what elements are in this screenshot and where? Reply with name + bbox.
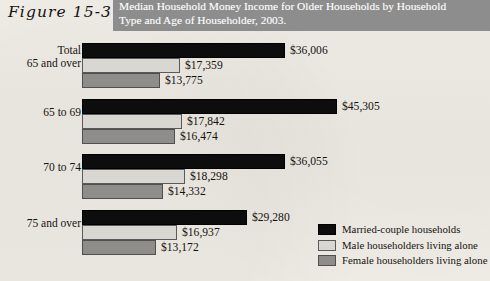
bar xyxy=(82,154,285,169)
bar-value-label: $16,474 xyxy=(180,130,218,143)
category-label-line-2: 65 and over xyxy=(0,57,81,70)
bar-value-label: $45,305 xyxy=(342,100,380,113)
category-label: 65 to 69 xyxy=(0,106,81,119)
bar-group: 70 to 74$36,055$18,298$14,332 xyxy=(0,152,490,198)
legend-item: Married-couple households xyxy=(318,222,490,238)
bar-value-label: $13,172 xyxy=(161,241,199,254)
bar xyxy=(82,225,177,240)
bar-value-label: $16,937 xyxy=(182,226,220,239)
bar xyxy=(82,114,182,129)
bar xyxy=(82,99,337,114)
figure-title-banner: Median Household Money Income for Older … xyxy=(113,0,490,31)
figure-title-line-2: Type and Age of Householder, 2003. xyxy=(113,13,286,27)
legend-item: Female householders living alone xyxy=(318,253,490,269)
bar-value-label: $36,055 xyxy=(290,155,328,168)
legend-item: Male householders living alone xyxy=(318,238,490,254)
chart-legend: Married-couple householdsMale householde… xyxy=(318,222,490,269)
legend-label: Married-couple households xyxy=(342,222,460,237)
category-label: 70 to 74 xyxy=(0,161,81,174)
bar xyxy=(82,210,247,225)
category-label: 75 and over xyxy=(0,217,81,230)
category-label-line-1: Total xyxy=(0,44,81,57)
bar xyxy=(82,240,156,255)
bar xyxy=(82,58,180,73)
legend-swatch xyxy=(318,255,336,266)
bar-value-label: $14,332 xyxy=(168,185,206,198)
bar-value-label: $18,298 xyxy=(190,170,228,183)
bar-group: 65 to 69$45,305$17,842$16,474 xyxy=(0,97,490,143)
category-label-line-1: 65 to 69 xyxy=(0,106,81,119)
bar-value-label: $17,842 xyxy=(187,115,225,128)
bar xyxy=(82,129,175,144)
bar-value-label: $13,775 xyxy=(165,74,203,87)
bar xyxy=(82,184,163,199)
category-label-line-1: 75 and over xyxy=(0,217,81,230)
bar-group: Total65 and over$36,006$17,359$13,775 xyxy=(0,41,490,87)
figure-number-label: Figure 15-3 xyxy=(8,3,112,21)
figure-title-line-1: Median Household Money Income for Older … xyxy=(113,0,446,13)
category-label: Total65 and over xyxy=(0,44,81,69)
category-label-line-1: 70 to 74 xyxy=(0,161,81,174)
bar xyxy=(82,43,285,58)
bar-value-label: $36,006 xyxy=(290,44,328,57)
bar-value-label: $29,280 xyxy=(252,211,290,224)
legend-swatch xyxy=(318,240,336,251)
bar xyxy=(82,169,185,184)
legend-label: Female householders living alone xyxy=(342,253,487,268)
bar-value-label: $17,359 xyxy=(185,59,223,72)
legend-swatch xyxy=(318,224,336,235)
legend-label: Male householders living alone xyxy=(342,238,478,253)
bar xyxy=(82,73,160,88)
figure-header: Figure 15-3 Median Household Money Incom… xyxy=(0,0,490,31)
